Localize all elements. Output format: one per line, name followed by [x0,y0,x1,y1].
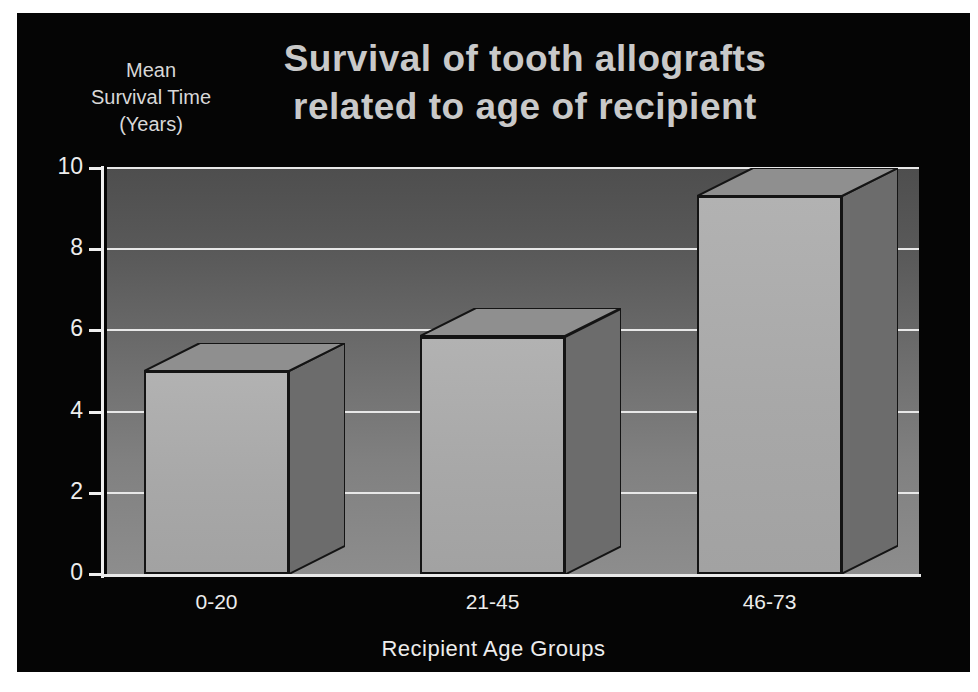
chart-title-line-2: related to age of recipient [195,83,855,131]
bar-side-face [842,168,898,574]
y-axis-tick-label: 0 [27,561,83,584]
plot-area [107,168,919,574]
y-axis-caption: Mean Survival Time (Years) [73,57,229,138]
y-axis-tick [89,248,102,251]
y-axis-tick-label: 6 [27,317,83,340]
y-axis-caption-line-2: Survival Time [73,84,229,111]
bar-front-face [697,196,842,574]
x-axis-line [101,574,921,577]
bar [697,168,898,574]
bar-side-face [565,309,621,575]
chart-slide: Survival of tooth allografts related to … [17,13,970,672]
x-axis-tick-label: 21-45 [380,591,605,612]
chart-title: Survival of tooth allografts related to … [195,35,855,131]
y-axis-tick-label: 10 [27,155,83,178]
bar [420,168,621,574]
x-axis-title: Recipient Age Groups [17,636,970,662]
y-axis-tick [89,411,102,414]
x-axis-tick-label: 0-20 [104,591,329,612]
bar-side-face [289,343,345,574]
bar-front-face [420,337,565,575]
x-axis-tick-label: 46-73 [657,591,882,612]
y-axis-caption-line-1: Mean [73,57,229,84]
chart-title-line-1: Survival of tooth allografts [195,35,855,83]
y-axis-tick-label: 4 [27,399,83,422]
bar [144,168,345,574]
bar-front-face [144,371,289,574]
bar-top-face [144,343,345,373]
y-axis-tick [89,329,102,332]
y-axis-tick-label: 2 [27,480,83,503]
y-axis-tick-label: 8 [27,236,83,259]
y-axis-line [101,166,104,578]
bar-top-face [697,168,898,198]
bar-top-face [420,308,621,338]
y-axis-tick [89,492,102,495]
y-axis-tick [89,167,102,170]
y-axis-tick-labels: 0246810 [17,13,83,672]
y-axis-caption-line-3: (Years) [73,111,229,138]
